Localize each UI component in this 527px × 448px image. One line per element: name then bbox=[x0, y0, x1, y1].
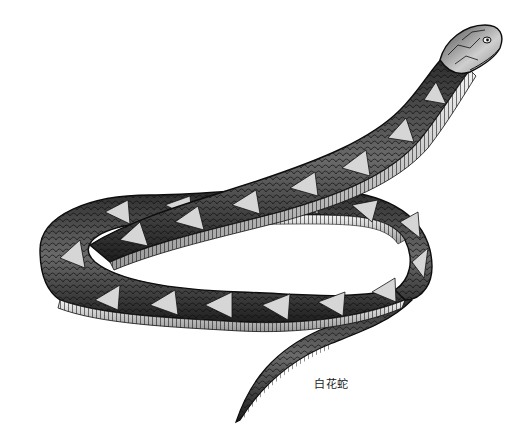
figure-canvas: 白花蛇 bbox=[0, 0, 527, 448]
snake-head bbox=[440, 25, 502, 74]
figure-caption: 白花蛇 bbox=[314, 375, 349, 391]
snake-illustration bbox=[0, 0, 527, 448]
